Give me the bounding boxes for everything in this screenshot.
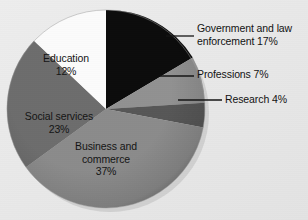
pie-callout-research-text: Research 4% [225, 93, 287, 105]
pie-label-social-services-percent: 23% [49, 123, 70, 135]
pie-label-social-services: Social services 23% [4, 110, 114, 135]
pie-callout-professions-text: Professions 7% [197, 68, 269, 80]
pie-callout-research: Research 4% [225, 93, 307, 106]
pie-label-business-and-commerce: Business and commerce 37% [58, 140, 154, 178]
pie-callout-government-line1: Government and law [197, 22, 292, 34]
pie-label-education: Education 12% [28, 52, 104, 77]
pie-rim-shading [7, 10, 205, 208]
pie-label-social-services-name: Social services [25, 110, 94, 122]
pie-label-education-name: Education [43, 52, 89, 64]
pie-chart-figure: Education 12% Social services 23% Busine… [0, 0, 308, 220]
pie-label-business-line1: Business and [75, 140, 137, 152]
pie-callout-government-line2: enforcement 17% [197, 35, 308, 48]
pie-label-business-line2: commerce [82, 153, 130, 165]
pie-label-business-percent: 37% [96, 165, 117, 177]
pie-callout-professions: Professions 7% [197, 68, 307, 81]
pie-callout-government-and-law-enforcement: Government and law enforcement 17% [197, 22, 308, 47]
pie-label-education-percent: 12% [56, 65, 77, 77]
